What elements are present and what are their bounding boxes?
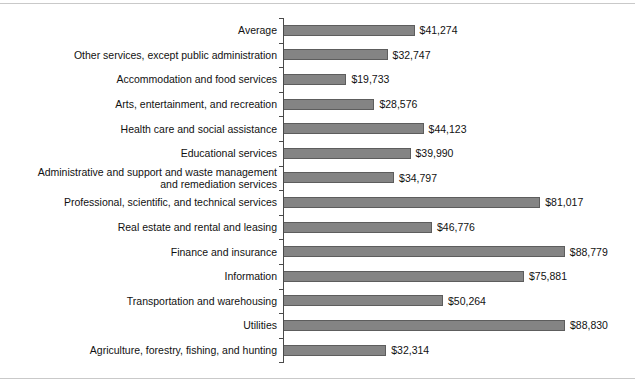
bar-value-label: $88,779: [570, 246, 608, 258]
bar-row: Transportation and warehousing$50,264: [0, 289, 635, 314]
axis-tick: [279, 18, 284, 19]
bar-with-label: $32,314: [284, 338, 429, 363]
bar-value-label: $32,314: [391, 344, 429, 356]
bar-with-label: $32,747: [284, 43, 431, 68]
category-label: Real estate and rental and leasing: [7, 221, 283, 233]
bar: [284, 246, 565, 257]
bar-rows: Average$41,274Other services, except pub…: [0, 18, 635, 362]
bar-with-label: $19,733: [284, 67, 389, 92]
bar-value-label: $19,733: [351, 73, 389, 85]
axis-tick: [279, 67, 284, 68]
axis-tick: [279, 215, 284, 216]
axis-tick: [279, 92, 284, 93]
category-label: Finance and insurance: [7, 246, 283, 258]
bar-row: Information$75,881: [0, 264, 635, 289]
category-label: Average: [7, 24, 283, 36]
category-label: Administrative and support and waste man…: [7, 166, 283, 190]
bar: [284, 345, 386, 356]
axis-tick: [279, 289, 284, 290]
bar-value-label: $34,797: [399, 172, 437, 184]
category-label: Utilities: [7, 319, 283, 331]
category-label: Health care and social assistance: [7, 123, 283, 135]
axis-tick: [279, 166, 284, 167]
axis-tick: [279, 239, 284, 240]
bar-value-label: $32,747: [393, 49, 431, 61]
bar: [284, 172, 394, 183]
bar-value-label: $28,576: [379, 98, 417, 110]
bar-with-label: $34,797: [284, 166, 437, 191]
bar: [284, 222, 432, 233]
bar-row: Professional, scientific, and technical …: [0, 190, 635, 215]
bar-row: Educational services$39,990: [0, 141, 635, 166]
bar-value-label: $46,776: [437, 221, 475, 233]
bar-with-label: $88,830: [284, 313, 608, 338]
bar-value-label: $81,017: [545, 196, 583, 208]
category-label: Arts, entertainment, and recreation: [7, 98, 283, 110]
bar: [284, 197, 540, 208]
bar: [284, 99, 374, 110]
bar-row: Average$41,274: [0, 18, 635, 43]
bar-value-label: $75,881: [529, 270, 567, 282]
bar-chart-figure: Average$41,274Other services, except pub…: [0, 0, 635, 383]
bar: [284, 271, 524, 282]
bar: [284, 123, 424, 134]
axis-tick: [279, 116, 284, 117]
category-label: Agriculture, forestry, fishing, and hunt…: [7, 344, 283, 356]
category-label: Accommodation and food services: [7, 73, 283, 85]
axis-tick: [279, 338, 284, 339]
axis-tick: [279, 141, 284, 142]
axis-tick: [279, 313, 284, 314]
bar-with-label: $81,017: [284, 190, 583, 215]
bar: [284, 74, 346, 85]
bar-row: Accommodation and food services$19,733: [0, 67, 635, 92]
bar: [284, 320, 565, 331]
axis-tick: [279, 362, 284, 363]
bar: [284, 148, 411, 159]
category-label: Transportation and warehousing: [7, 295, 283, 307]
bar-with-label: $46,776: [284, 215, 475, 240]
category-label: Information: [7, 270, 283, 282]
bar-row: Arts, entertainment, and recreation$28,5…: [0, 92, 635, 117]
bar-with-label: $39,990: [284, 141, 453, 166]
bar-row: Health care and social assistance$44,123: [0, 116, 635, 141]
category-label: Professional, scientific, and technical …: [7, 196, 283, 208]
category-label: Educational services: [7, 147, 283, 159]
bar: [284, 49, 388, 60]
axis-tick: [279, 264, 284, 265]
bar-row: Other services, except public administra…: [0, 43, 635, 68]
bar-row: Administrative and support and waste man…: [0, 166, 635, 191]
axis-tick: [279, 43, 284, 44]
bar: [284, 295, 443, 306]
bar-value-label: $88,830: [570, 319, 608, 331]
bar-with-label: $88,779: [284, 239, 608, 264]
bar: [284, 25, 415, 36]
bar-with-label: $44,123: [284, 116, 467, 141]
bar-row: Real estate and rental and leasing$46,77…: [0, 215, 635, 240]
axis-tick: [279, 190, 284, 191]
bar-with-label: $50,264: [284, 289, 486, 314]
bar-value-label: $41,274: [420, 24, 458, 36]
bar-with-label: $75,881: [284, 264, 567, 289]
bar-value-label: $44,123: [429, 123, 467, 135]
bar-with-label: $28,576: [284, 92, 417, 117]
bar-value-label: $50,264: [448, 295, 486, 307]
bar-with-label: $41,274: [284, 18, 458, 43]
category-label: Other services, except public administra…: [7, 49, 283, 61]
bar-value-label: $39,990: [416, 147, 454, 159]
bar-row: Utilities$88,830: [0, 313, 635, 338]
plot-area: Average$41,274Other services, except pub…: [0, 0, 635, 383]
bar-row: Agriculture, forestry, fishing, and hunt…: [0, 338, 635, 363]
bar-row: Finance and insurance$88,779: [0, 239, 635, 264]
